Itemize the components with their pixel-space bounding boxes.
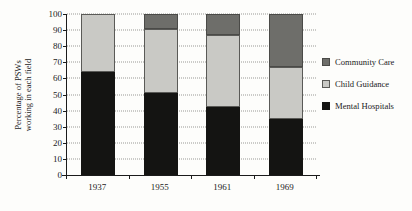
bar-segment-guidance: [144, 29, 178, 93]
x-axis-tick-mark: [316, 175, 317, 179]
x-axis-tick-mark: [129, 175, 130, 179]
bar-segment-mental: [269, 119, 303, 175]
y-axis-tick-label: 100: [36, 10, 62, 19]
y-axis-tick-label: 10: [36, 154, 62, 163]
legend-swatch-icon: [322, 80, 330, 88]
x-axis-tick-mark: [191, 175, 192, 179]
legend-item: Child Guidance: [322, 78, 412, 89]
y-axis-tick-label: 70: [36, 58, 62, 67]
bar-segment-mental: [81, 72, 115, 175]
bar-segment-mental: [144, 93, 178, 175]
y-axis-tick-mark: [63, 46, 67, 47]
y-axis-tick-label: 0: [36, 171, 62, 180]
y-axis-tick-labels: 0102030405060708090100: [36, 0, 62, 211]
y-axis-tick-mark: [63, 159, 67, 160]
y-axis-tick-mark: [63, 78, 67, 79]
legend-item-label: Mental Hospitals: [335, 101, 394, 111]
y-axis-tick-label: 50: [36, 90, 62, 99]
bar-1955: [144, 14, 178, 175]
bar-segment-community: [269, 14, 303, 67]
y-axis-tick-mark: [63, 127, 67, 128]
y-axis-tick-label: 60: [36, 74, 62, 83]
x-axis-tick-mark: [254, 175, 255, 179]
legend-item: Community Care: [322, 56, 412, 67]
bar-1937: [81, 14, 115, 175]
y-axis-tick-mark: [63, 143, 67, 144]
legend-item-label: Child Guidance: [335, 79, 389, 89]
y-axis-title-line-2: working in each field: [23, 59, 33, 131]
y-axis-tick-label: 30: [36, 122, 62, 131]
bar-segment-mental: [206, 107, 240, 175]
y-axis-tick-label: 20: [36, 138, 62, 147]
y-axis-tick-mark: [63, 30, 67, 31]
bar-segment-guidance: [206, 35, 240, 107]
bar-segment-community: [144, 14, 178, 28]
x-axis-tick-label-1955: 1955: [130, 182, 190, 192]
legend-item-label: Community Care: [335, 57, 394, 67]
x-axis-tick-label-1969: 1969: [255, 182, 315, 192]
y-axis-tick-mark: [63, 62, 67, 63]
y-axis-tick-mark: [63, 14, 67, 15]
y-axis-tick-label: 40: [36, 106, 62, 115]
chart-legend: Community CareChild GuidanceMental Hospi…: [322, 56, 412, 122]
plot-inner: [67, 14, 316, 175]
legend-swatch-icon: [322, 102, 330, 110]
bar-segment-guidance: [269, 67, 303, 119]
legend-item: Mental Hospitals: [322, 100, 412, 111]
y-axis-tick-label: 90: [36, 26, 62, 35]
stacked-bar-chart-figure: Percentage of PSWs working in each field…: [0, 0, 412, 211]
plot-area: [66, 14, 316, 175]
bar-segment-community: [206, 14, 240, 35]
x-axis-tick-mark: [66, 175, 67, 179]
y-axis-title: Percentage of PSWs working in each field: [10, 14, 36, 176]
x-axis-tick-label-1937: 1937: [67, 182, 127, 192]
bar-1961: [206, 14, 240, 175]
y-axis-tick-label: 80: [36, 42, 62, 51]
y-axis-tick-mark: [63, 95, 67, 96]
x-axis-tick-label-1961: 1961: [192, 182, 252, 192]
legend-swatch-icon: [322, 58, 330, 66]
bar-1969: [269, 14, 303, 175]
y-axis-tick-mark: [63, 111, 67, 112]
bar-segment-guidance: [81, 14, 115, 72]
